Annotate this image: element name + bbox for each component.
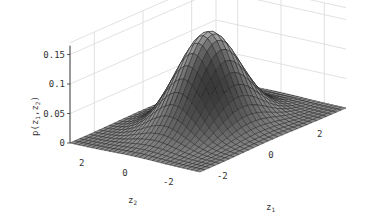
surface-plot: 00.050.10.15 -202 -202 p(z1,z2) z1 z2 [0,0,374,222]
z-tick-label: 0 [60,138,65,148]
z1-tick-label: 2 [317,129,322,139]
z2-tick-label: -2 [163,177,174,187]
z-axis-label: p(z1,z2) [30,96,41,136]
z-tick-label: 0.1 [49,79,65,89]
z1-axis-label: z1 [266,202,275,213]
z1-tick-label: -2 [217,171,228,181]
z2-tick-label: 2 [79,158,84,168]
z-tick-label: 0.15 [43,50,65,60]
z-tick-label: 0.05 [43,109,65,119]
z1-tick-label: 0 [268,150,273,160]
gaussian-surface [70,31,346,172]
z-axis: 00.050.10.15 [43,46,70,148]
z2-axis-label: z2 [128,195,137,206]
z2-tick-label: 0 [122,168,127,178]
